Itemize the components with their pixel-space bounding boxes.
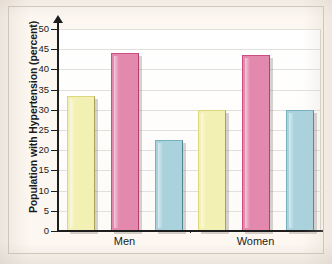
bar — [286, 110, 314, 231]
y-axis-tick-label: 0 — [25, 225, 49, 236]
y-axis-tick-label: 5 — [25, 205, 49, 216]
gridline — [59, 29, 321, 30]
gridline — [59, 150, 321, 151]
gridline — [59, 191, 321, 192]
y-axis-tick-label: 35 — [25, 84, 49, 95]
bar-body — [111, 53, 139, 231]
gridline — [59, 170, 321, 171]
y-axis-arrow-icon — [53, 15, 63, 23]
y-axis-tick-label: 45 — [25, 43, 49, 54]
x-axis-group-label: Women — [190, 235, 321, 247]
bar-highlight — [114, 56, 119, 228]
y-axis-tick — [51, 110, 58, 111]
x-axis-group-separator — [190, 230, 191, 233]
gridline — [59, 211, 321, 212]
bar-highlight — [158, 143, 163, 228]
bar — [111, 53, 139, 231]
chart-page: Population with Hypertension (percent) 0… — [0, 0, 332, 264]
bar-body — [67, 96, 95, 231]
bar — [67, 96, 95, 231]
y-axis-tick — [51, 231, 58, 232]
bar — [242, 55, 270, 231]
bar-highlight — [289, 113, 294, 228]
figure-frame: Population with Hypertension (percent) 0… — [8, 6, 324, 254]
gridline — [59, 110, 321, 111]
x-axis-group-label: Men — [59, 235, 190, 247]
bar-highlight — [201, 113, 206, 228]
gridline — [59, 69, 321, 70]
y-axis-tick — [51, 170, 58, 171]
y-axis-tick — [51, 211, 58, 212]
bar-highlight — [245, 58, 250, 228]
bar-body — [198, 110, 226, 231]
y-axis-tick — [51, 69, 58, 70]
gridline — [59, 130, 321, 131]
bar — [198, 110, 226, 231]
y-axis-tick — [51, 191, 58, 192]
y-axis-tick — [51, 130, 58, 131]
y-axis-tick — [51, 90, 58, 91]
gridline — [59, 49, 321, 50]
bar-highlight — [70, 99, 75, 228]
bar — [155, 140, 183, 231]
y-axis-tick-label: 40 — [25, 63, 49, 74]
y-axis-line — [57, 21, 59, 231]
y-axis-tick-label: 10 — [25, 185, 49, 196]
y-axis-tick — [51, 29, 58, 30]
y-axis-tick — [51, 49, 58, 50]
y-axis-tick-label: 50 — [25, 23, 49, 34]
y-axis-tick-label: 15 — [25, 164, 49, 175]
gridline — [59, 90, 321, 91]
y-axis-tick-label: 30 — [25, 104, 49, 115]
bar-body — [286, 110, 314, 231]
y-axis-tick-label: 20 — [25, 144, 49, 155]
y-axis-tick — [51, 150, 58, 151]
bar-body — [155, 140, 183, 231]
bar-body — [242, 55, 270, 231]
y-axis-tick-label: 25 — [25, 124, 49, 135]
plot-area — [59, 29, 321, 231]
